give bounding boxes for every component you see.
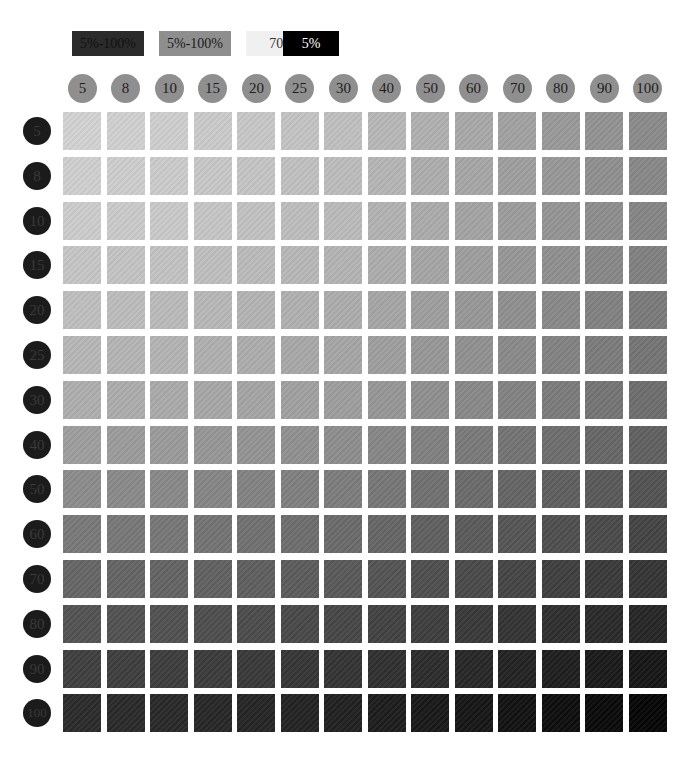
swatch-cell: [498, 202, 536, 240]
swatch-cell: [498, 605, 536, 643]
swatch-cell: [107, 202, 145, 240]
swatch-cell: [63, 381, 101, 419]
swatch-cell: [629, 246, 667, 284]
swatch-cell: [542, 515, 580, 553]
row-header: 50: [23, 475, 51, 503]
swatch-cell: [585, 560, 623, 598]
swatch-cell: [281, 605, 319, 643]
swatch-cell: [324, 202, 362, 240]
swatch-cell: [150, 694, 188, 732]
swatch-cell: [498, 694, 536, 732]
swatch-cell: [498, 470, 536, 508]
swatch-cell: [585, 336, 623, 374]
swatch-cell: [237, 470, 275, 508]
swatch-cell: [368, 470, 406, 508]
swatch-cell: [629, 650, 667, 688]
swatch-cell: [237, 157, 275, 195]
legend-item: 5%: [283, 31, 339, 56]
swatch-cell: [585, 650, 623, 688]
swatch-cell: [411, 246, 449, 284]
swatch-cell: [411, 470, 449, 508]
swatch-cell: [324, 515, 362, 553]
swatch-cell: [150, 157, 188, 195]
swatch-cell: [237, 426, 275, 464]
swatch-cell: [455, 694, 493, 732]
swatch-cell: [107, 605, 145, 643]
column-header: 50: [416, 74, 445, 103]
swatch-cell: [455, 426, 493, 464]
swatch-cell: [585, 515, 623, 553]
swatch-cell: [281, 426, 319, 464]
swatch-cell: [281, 470, 319, 508]
swatch-cell: [585, 381, 623, 419]
row-header: 15: [23, 251, 51, 279]
swatch-cell: [107, 112, 145, 150]
swatch-cell: [324, 426, 362, 464]
swatch-cell: [629, 515, 667, 553]
column-header: 5: [68, 74, 97, 103]
swatch-cell: [542, 157, 580, 195]
swatch-cell: [63, 694, 101, 732]
column-header: 70: [503, 74, 532, 103]
swatch-cell: [324, 336, 362, 374]
swatch-cell: [194, 515, 232, 553]
swatch-cell: [107, 515, 145, 553]
swatch-cell: [324, 560, 362, 598]
swatch-cell: [281, 291, 319, 329]
swatch-cell: [411, 650, 449, 688]
swatch-cell: [629, 560, 667, 598]
swatch-cell: [150, 650, 188, 688]
column-header: 8: [111, 74, 140, 103]
swatch-cell: [542, 560, 580, 598]
swatch-cell: [629, 157, 667, 195]
column-header: 25: [285, 74, 314, 103]
swatch-cell: [324, 381, 362, 419]
swatch-cell: [411, 694, 449, 732]
swatch-cell: [281, 650, 319, 688]
swatch-cell: [368, 650, 406, 688]
swatch-cell: [63, 291, 101, 329]
row-header: 90: [23, 655, 51, 683]
swatch-cell: [150, 381, 188, 419]
swatch-cell: [281, 157, 319, 195]
column-header: 40: [372, 74, 401, 103]
row-header: 60: [23, 520, 51, 548]
swatch-cell: [150, 202, 188, 240]
swatch-cell: [194, 694, 232, 732]
row-header: 8: [23, 162, 51, 190]
swatch-cell: [455, 470, 493, 508]
swatch-cell: [629, 470, 667, 508]
swatch-cell: [455, 650, 493, 688]
swatch-cell: [542, 291, 580, 329]
swatch-cell: [542, 426, 580, 464]
swatch-cell: [237, 515, 275, 553]
swatch-cell: [107, 426, 145, 464]
row-header: 70: [23, 565, 51, 593]
swatch-cell: [585, 112, 623, 150]
swatch-cell: [542, 381, 580, 419]
swatch-cell: [324, 291, 362, 329]
column-header: 90: [590, 74, 619, 103]
swatch-cell: [63, 202, 101, 240]
swatch-cell: [281, 202, 319, 240]
row-header: 30: [23, 386, 51, 414]
swatch-cell: [629, 605, 667, 643]
swatch-cell: [324, 605, 362, 643]
swatch-cell: [368, 336, 406, 374]
swatch-cell: [237, 291, 275, 329]
swatch-cell: [455, 246, 493, 284]
swatch-cell: [107, 336, 145, 374]
swatch-cell: [498, 650, 536, 688]
column-header: 15: [198, 74, 227, 103]
legend-item: 5%-100%: [159, 31, 231, 56]
swatch-cell: [281, 336, 319, 374]
swatch-cell: [324, 694, 362, 732]
swatch-cell: [150, 336, 188, 374]
swatch-cell: [107, 291, 145, 329]
swatch-cell: [411, 336, 449, 374]
swatch-cell: [455, 291, 493, 329]
swatch-cell: [324, 470, 362, 508]
swatch-cell: [455, 515, 493, 553]
swatch-cell: [63, 157, 101, 195]
swatch-cell: [194, 112, 232, 150]
